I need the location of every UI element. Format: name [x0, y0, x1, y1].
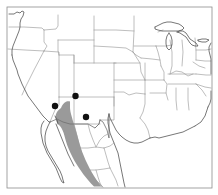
locality-point-3 [83, 114, 89, 120]
locality-point-2 [52, 103, 58, 109]
locality-point-1 [72, 93, 78, 99]
distribution-map-figure [0, 0, 218, 195]
map-canvas [0, 0, 218, 195]
